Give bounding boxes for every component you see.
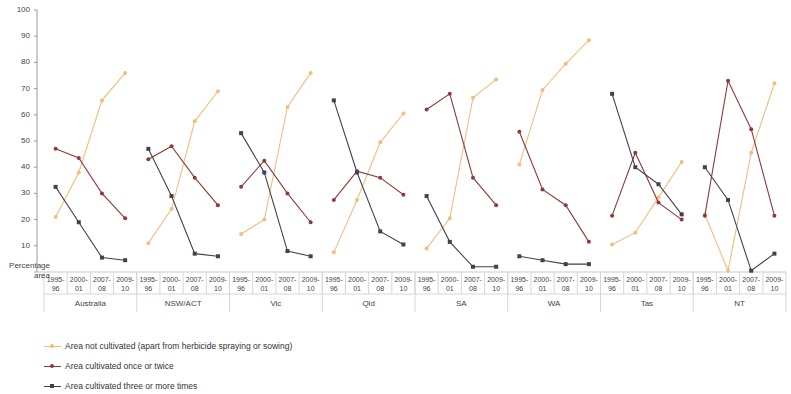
data-point (262, 159, 266, 163)
data-point (100, 256, 104, 260)
data-point (425, 108, 429, 112)
data-point (309, 254, 313, 258)
data-point (633, 165, 637, 169)
data-point (239, 131, 243, 135)
chart-container: 102030405060708090100 Percentagearea 199… (0, 0, 791, 394)
data-point (77, 156, 81, 160)
series-line (427, 79, 497, 248)
y-axis-tick: 70 (4, 84, 30, 93)
y-axis-tick: 80 (4, 57, 30, 66)
data-point (216, 254, 220, 258)
x-axis-tick: 2009-10 (114, 275, 137, 293)
series-line (705, 167, 775, 270)
data-point (471, 176, 475, 180)
data-point (587, 240, 591, 244)
x-axis-tick: 2009-10 (763, 275, 786, 293)
data-point (541, 258, 545, 262)
data-point (170, 207, 174, 211)
data-point (726, 198, 730, 202)
data-point (193, 252, 197, 256)
data-point (610, 242, 614, 246)
x-axis-tick: 2000-01 (716, 275, 739, 293)
data-point (54, 185, 58, 189)
x-axis-tick: 2009-10 (670, 275, 693, 293)
data-point (100, 98, 104, 102)
series-line (427, 94, 497, 205)
data-point (285, 105, 289, 109)
legend-marker-icon (44, 383, 61, 390)
x-axis-tick: 2007-08 (647, 275, 670, 293)
series-line (241, 133, 311, 256)
group-label-nt: NT (693, 299, 786, 308)
data-point (239, 232, 243, 236)
data-point (541, 187, 545, 191)
legend-marker-icon (44, 343, 61, 350)
x-axis-tick: 1995-96 (601, 275, 624, 293)
data-point (633, 151, 637, 155)
x-axis-tick: 2007-08 (90, 275, 113, 293)
data-point (146, 157, 150, 161)
data-point (541, 88, 545, 92)
x-axis-tick: 2000-01 (438, 275, 461, 293)
y-axis-tick: 100 (4, 5, 30, 14)
x-axis-tick: 2007-08 (369, 275, 392, 293)
x-axis-tick: 2009-10 (485, 275, 508, 293)
y-axis-tick: 90 (4, 31, 30, 40)
x-axis-tick: 2007-08 (740, 275, 763, 293)
data-point (448, 92, 452, 96)
data-point (193, 176, 197, 180)
data-point (749, 269, 753, 273)
x-axis-tick: 2000-01 (253, 275, 276, 293)
data-point (610, 214, 614, 218)
data-point (77, 220, 81, 224)
series-line (705, 81, 775, 216)
data-point (123, 216, 127, 220)
data-point (193, 119, 197, 123)
data-point (633, 231, 637, 235)
x-axis-tick: 2007-08 (276, 275, 299, 293)
data-point (749, 151, 753, 155)
legend-label: Area not cultivated (apart from herbicid… (65, 341, 292, 351)
data-point (680, 212, 684, 216)
y-axis-tick: 50 (4, 136, 30, 145)
data-point (146, 241, 150, 245)
data-point (471, 96, 475, 100)
series-line (519, 40, 589, 164)
series-line (334, 171, 404, 200)
legend-item: Area not cultivated (apart from herbicid… (44, 341, 292, 351)
x-axis-tick: 2000-01 (531, 275, 554, 293)
data-point (309, 220, 313, 224)
x-axis-tick: 2009-10 (299, 275, 322, 293)
series-line (56, 73, 126, 217)
data-point (517, 130, 521, 134)
series-line (612, 153, 682, 220)
series-line (519, 256, 589, 264)
legend-item: Area cultivated three or more times (44, 381, 197, 391)
data-point (749, 127, 753, 131)
data-point (123, 71, 127, 75)
group-label-vic: Vic (230, 299, 323, 308)
data-point (517, 163, 521, 167)
series-line (612, 94, 682, 215)
data-point (772, 81, 776, 85)
data-point (448, 216, 452, 220)
x-axis-tick: 1995-96 (137, 275, 160, 293)
y-axis-title: Percentagearea (2, 261, 50, 281)
data-point (587, 262, 591, 266)
x-axis-tick: 1995-96 (230, 275, 253, 293)
group-label-sa: SA (415, 299, 508, 308)
data-point (355, 198, 359, 202)
data-point (378, 229, 382, 233)
data-point (262, 170, 266, 174)
data-point (100, 191, 104, 195)
data-point (772, 214, 776, 218)
data-point (425, 246, 429, 250)
data-point (772, 252, 776, 256)
legend-label: Area cultivated three or more times (65, 381, 197, 391)
x-axis-tick: 2007-08 (554, 275, 577, 293)
y-axis-tick: 30 (4, 188, 30, 197)
data-point (285, 249, 289, 253)
data-point (726, 79, 730, 83)
legend-marker-icon (44, 363, 61, 370)
group-label-qld: Qld (322, 299, 415, 308)
